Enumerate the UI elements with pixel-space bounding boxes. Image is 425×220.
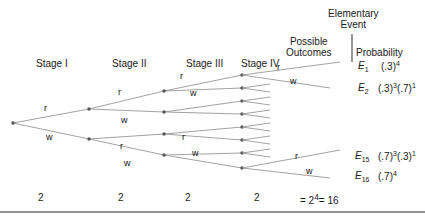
probability-tree-figure: Stage I Stage II Stage III Stage IV Poss… (0, 0, 425, 220)
event-label: E16 (355, 170, 369, 183)
branch-label: w (124, 158, 131, 168)
elementary-event-line2: Event (328, 19, 379, 30)
branch-label: w (290, 76, 297, 86)
event-label: E2 (358, 82, 369, 95)
prob-base: (.7) (378, 151, 393, 162)
branch-label: r (44, 103, 47, 113)
branch-label: w (306, 166, 313, 176)
stage-header-3: Stage III (186, 58, 223, 69)
probability-header: Probability (356, 47, 403, 58)
probability-value: (.7)3(.3)1 (378, 150, 416, 162)
prob-exp: 4 (393, 170, 397, 177)
prob-base: (.3) (397, 151, 412, 162)
event-symbol: E (355, 170, 362, 181)
prob-exp: 1 (412, 82, 416, 89)
stage-header-4: Stage IV (241, 58, 279, 69)
branch-label: r (118, 87, 121, 97)
probability-value: (.3)3(.7)1 (378, 82, 416, 94)
total-outcomes: = 24= 16 (300, 192, 339, 206)
elementary-event-header: Elementary Event (328, 8, 379, 30)
branch-label: r (277, 62, 280, 72)
event-index: 15 (362, 156, 370, 163)
probability-value: (.7)4 (378, 170, 397, 182)
probability-value: (.3)4 (381, 60, 400, 72)
stage-header-1: Stage I (36, 58, 68, 69)
prob-base: (.7) (397, 83, 412, 94)
event-symbol: E (358, 60, 365, 71)
total-prefix: = 2 (300, 195, 314, 206)
stage-count: 2 (118, 192, 124, 203)
possible-outcomes-line2: Outcomes (286, 47, 332, 58)
event-symbol: E (358, 82, 365, 93)
branch-label: r (180, 71, 183, 81)
branch-label: r (295, 151, 298, 161)
elementary-event-line1: Elementary (328, 8, 379, 19)
total-suffix: = 16 (319, 195, 339, 206)
stage-header-2: Stage II (112, 58, 146, 69)
stage-count: 2 (254, 192, 260, 203)
stage-count: 2 (185, 192, 191, 203)
event-index: 16 (362, 176, 370, 183)
prob-exp: 1 (412, 150, 416, 157)
event-symbol: E (355, 150, 362, 161)
branch-label: r (182, 132, 185, 142)
prob-base: (.3) (378, 83, 393, 94)
event-index: 1 (365, 66, 369, 73)
possible-outcomes-header: Possible Outcomes (286, 36, 332, 58)
branch-label: w (192, 148, 199, 158)
prob-base: (.7) (378, 171, 393, 182)
stage-count: 2 (38, 192, 44, 203)
event-label: E15 (355, 150, 369, 163)
event-label: E1 (358, 60, 369, 73)
tree-graphic (0, 0, 425, 220)
event-index: 2 (365, 88, 369, 95)
branch-label: w (190, 88, 197, 98)
branch-label: r (120, 141, 123, 151)
branch-label: w (121, 115, 128, 125)
possible-outcomes-line1: Possible (286, 36, 332, 47)
prob-base: (.3) (381, 61, 396, 72)
branch-label: w (46, 132, 53, 142)
prob-exp: 4 (396, 60, 400, 67)
